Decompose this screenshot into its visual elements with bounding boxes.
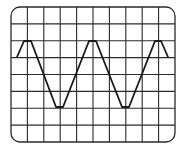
oscilloscope-screen (0, 0, 182, 152)
grid-lines (11, 7, 175, 142)
